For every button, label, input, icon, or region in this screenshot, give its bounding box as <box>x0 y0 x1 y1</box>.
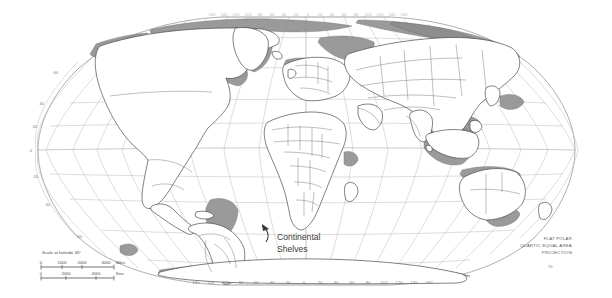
lon-label-b-5: 40 <box>270 280 275 285</box>
lat-label-20s: 20 <box>33 174 38 179</box>
scale-miles-tick-1: 1000 <box>57 260 67 265</box>
lon-label-b-2: 100 <box>223 280 231 285</box>
scale-kms-tick-2: 4000 <box>91 271 101 276</box>
world-map-figure: 60 40 20 0 20 40 60 70 140 120 100 80 60… <box>0 0 612 298</box>
scale-miles-tick-2: 2000 <box>77 260 87 265</box>
lon-label-b-0: 140 <box>193 280 201 285</box>
lon-label-t-4: 80 <box>258 12 263 17</box>
lat-label-20n: 20 <box>32 124 37 129</box>
lon-label-t-12: 80 <box>354 12 359 17</box>
lon-label-t-10: 40 <box>330 12 335 17</box>
lon-label-b-6: 20 <box>286 280 291 285</box>
lat-label-40n: 40 <box>39 101 44 106</box>
lon-label-t-15: 140 <box>389 12 397 17</box>
lon-label-b-4: 60 <box>254 280 259 285</box>
lon-label-b-10: 60 <box>350 280 355 285</box>
lat-label-70s-right: 70 <box>548 264 553 269</box>
lat-label-60s: 60 <box>77 234 82 239</box>
lon-label-b-3: 80 <box>239 280 244 285</box>
lon-label-t-3: 100 <box>245 12 253 17</box>
scale-caption: Scale at latitude 35° <box>42 250 81 255</box>
lon-label-t-16: 160 <box>401 12 409 17</box>
lat-label-60n: 60 <box>53 70 58 75</box>
lon-label-b-11: 80 <box>366 280 371 285</box>
lon-label-t-11: 60 <box>342 12 347 17</box>
lon-label-t-9: 20 <box>318 12 323 17</box>
lon-label-t-5: 60 <box>270 12 275 17</box>
lon-label-b-15: 160 <box>426 280 434 285</box>
lon-label-b-8: 20 <box>318 280 323 285</box>
scale-kms-unit: Kms <box>116 271 124 276</box>
lon-label-t-1: 140 <box>221 12 229 17</box>
lon-label-t-2: 120 <box>233 12 241 17</box>
lon-label-b-1: 120 <box>208 280 216 285</box>
lon-label-b-12: 100 <box>381 280 389 285</box>
projection-line-3: PROJECTION <box>542 250 572 255</box>
projection-line-2: QUARTIC EQUAL AREA <box>520 243 572 248</box>
annotation-line-1: Continental <box>277 232 321 242</box>
lat-label-40s: 40 <box>45 202 50 207</box>
lon-label-t-14: 120 <box>377 12 385 17</box>
lon-label-b-14: 140 <box>411 280 419 285</box>
lon-label-b-9: 40 <box>334 280 339 285</box>
lon-label-t-6: 40 <box>282 12 287 17</box>
projection-line-1: FLAT POLAR <box>544 236 572 241</box>
map-canvas: 60 40 20 0 20 40 60 70 140 120 100 80 60… <box>0 0 612 298</box>
lon-label-t-7: 20 <box>294 12 299 17</box>
lon-label-t-0: 160 <box>209 12 217 17</box>
scale-miles-unit: Miles <box>116 260 125 265</box>
lon-label-t-13: 100 <box>365 12 373 17</box>
scale-miles-tick-3: 4000 <box>101 260 111 265</box>
lon-label-b-13: 120 <box>396 280 404 285</box>
annotation-line-2: Shelves <box>277 244 308 254</box>
scale-kms-tick-1: 2000 <box>61 271 71 276</box>
